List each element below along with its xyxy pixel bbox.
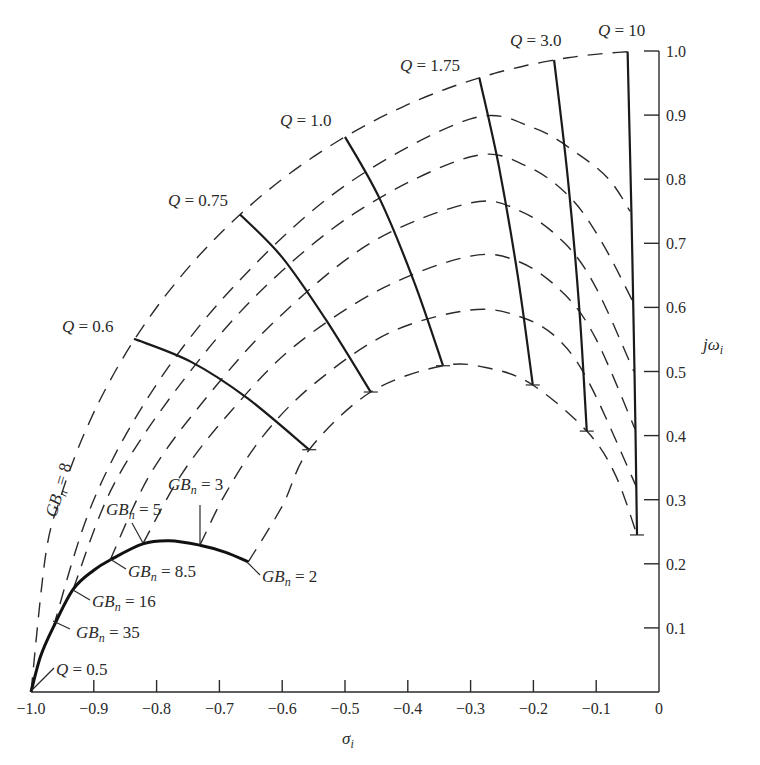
y-tick-label: 0.6 xyxy=(666,299,686,316)
gb-curve-gbn35 xyxy=(53,115,630,627)
gb-curve-gbn8.5 xyxy=(110,201,634,560)
x-tick-label: −0.6 xyxy=(268,700,297,717)
label-q10: Q = 10 xyxy=(598,21,645,40)
x-tick-label: −0.8 xyxy=(142,700,171,717)
label-gbn-inf: GBn = 8 xyxy=(42,461,78,520)
label-q3.0: Q = 3.0 xyxy=(510,31,562,50)
pole-locus-chart: −1.0−0.9−0.8−0.7−0.6−0.5−0.4−0.3−0.2−0.1… xyxy=(0,0,760,765)
y-tick-label: 0.2 xyxy=(666,556,686,573)
axes: −1.0−0.9−0.8−0.7−0.6−0.5−0.4−0.3−0.2−0.1… xyxy=(16,43,723,751)
x-tick-label: −0.2 xyxy=(519,700,548,717)
y-tick-label: 0.1 xyxy=(666,620,686,637)
gbn-leader xyxy=(110,559,126,569)
y-tick-label: 0.8 xyxy=(666,171,686,188)
label-gbn-2: GBn = 2 xyxy=(262,567,317,589)
y-tick-label: 0.9 xyxy=(666,107,686,124)
q-curve-0.75 xyxy=(240,215,371,393)
y-tick-label: 0.4 xyxy=(666,428,686,445)
x-tick-label: −0.3 xyxy=(456,700,485,717)
label-gbn-3: GBn = 3 xyxy=(168,475,223,497)
label-q1.0: Q = 1.0 xyxy=(280,111,332,130)
label-q0.5: Q = 0.5 xyxy=(56,660,108,679)
label-q0.75: Q = 0.75 xyxy=(168,191,228,210)
label-q1.75: Q = 1.75 xyxy=(400,56,460,75)
x-tick-label: 0 xyxy=(655,700,663,717)
label-q0.6: Q = 0.6 xyxy=(62,317,114,336)
label-gbn-35: GBn = 35 xyxy=(76,623,140,645)
x-tick-label: −0.5 xyxy=(330,700,359,717)
q-curve-1.0 xyxy=(345,137,443,366)
gb-curve-gbn5 xyxy=(143,254,635,544)
label-gbn-8.5: GBn = 8.5 xyxy=(128,562,196,584)
gb-curve-gbn16 xyxy=(73,154,633,589)
x-axis-title: σi xyxy=(342,729,354,751)
x-tick-label: −0.1 xyxy=(582,700,611,717)
y-tick-label: 1.0 xyxy=(666,43,686,60)
label-gbn-5: GBn = 5 xyxy=(106,500,161,522)
y-tick-label: 0.7 xyxy=(666,235,686,252)
gbn-leader xyxy=(73,590,90,600)
q-curve-3.0 xyxy=(554,60,587,431)
gbn-leader xyxy=(247,562,260,575)
label-gbn-16: GBn = 16 xyxy=(92,592,156,614)
x-tick-label: −0.7 xyxy=(205,700,234,717)
y-tick-label: 0.3 xyxy=(666,492,686,509)
gbn-leader xyxy=(132,523,143,543)
x-tick-label: −0.9 xyxy=(79,700,108,717)
y-axis-title: jωi xyxy=(701,335,723,357)
gb-curve-gbn2 xyxy=(248,364,637,562)
x-tick-label: −0.4 xyxy=(393,700,422,717)
x-tick-label: −1.0 xyxy=(16,700,45,717)
y-tick-label: 0.5 xyxy=(666,364,686,381)
gb-curve-gbn3 xyxy=(200,309,637,545)
